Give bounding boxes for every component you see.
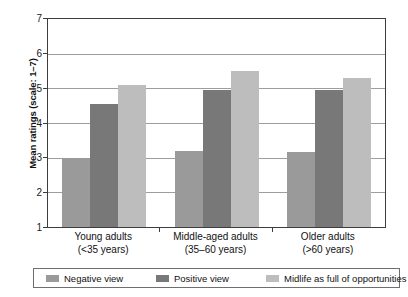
x-group-label-line-1: Middle-aged adults bbox=[159, 231, 271, 244]
x-group-label-line-1: Young adults bbox=[47, 231, 159, 244]
bar-1-3 bbox=[118, 85, 146, 227]
legend-label: Negative view bbox=[64, 273, 123, 284]
bar-1-1 bbox=[62, 158, 90, 227]
bar-2-1 bbox=[175, 151, 203, 227]
legend-item-1[interactable]: Negative view bbox=[46, 273, 123, 284]
legend-item-2[interactable]: Positive view bbox=[156, 273, 229, 284]
y-tick-mark-5 bbox=[43, 88, 47, 89]
legend-swatch-icon bbox=[46, 275, 59, 282]
y-tick-label-6: 6 bbox=[2, 47, 42, 58]
legend-label: Positive view bbox=[174, 273, 229, 284]
x-axis-group-labels: Young adults(<35 years)Middle-aged adult… bbox=[47, 231, 386, 263]
legend-label: Midlife as full of opportunities bbox=[284, 273, 407, 284]
legend-item-3[interactable]: Midlife as full of opportunities bbox=[266, 273, 407, 284]
y-tick-label-1: 1 bbox=[2, 222, 42, 233]
bars-layer bbox=[48, 19, 385, 227]
bar-3-3 bbox=[343, 78, 371, 227]
x-group-label-1: Young adults(<35 years) bbox=[47, 231, 159, 256]
y-tick-label-3: 3 bbox=[2, 152, 42, 163]
x-group-label-line-1: Older adults bbox=[272, 231, 384, 244]
bar-2-3 bbox=[231, 71, 259, 227]
bar-2-2 bbox=[203, 90, 231, 227]
x-group-label-line-2: (>60 years) bbox=[272, 244, 384, 257]
y-tick-mark-6 bbox=[43, 53, 47, 54]
x-group-label-line-2: (<35 years) bbox=[47, 244, 159, 257]
y-tick-label-7: 7 bbox=[2, 13, 42, 24]
y-axis-tick-labels: 1234567 bbox=[0, 18, 42, 228]
bar-3-1 bbox=[287, 152, 315, 227]
bar-1-2 bbox=[90, 104, 118, 227]
y-tick-label-4: 4 bbox=[2, 117, 42, 128]
x-group-label-line-2: (35–60 years) bbox=[159, 244, 271, 257]
y-tick-mark-7 bbox=[43, 18, 47, 19]
y-tick-mark-3 bbox=[43, 157, 47, 158]
x-group-label-2: Middle-aged adults(35–60 years) bbox=[159, 231, 271, 256]
x-tick-mark-1 bbox=[159, 228, 160, 232]
legend-swatch-icon bbox=[156, 275, 169, 282]
y-tick-label-2: 2 bbox=[2, 187, 42, 198]
bar-3-2 bbox=[315, 90, 343, 227]
chart-legend: Negative viewPositive viewMidlife as ful… bbox=[33, 268, 400, 288]
legend-swatch-icon bbox=[266, 275, 279, 282]
y-tick-label-5: 5 bbox=[2, 82, 42, 93]
x-tick-mark-2 bbox=[272, 228, 273, 232]
y-tick-mark-4 bbox=[43, 123, 47, 124]
x-group-label-3: Older adults(>60 years) bbox=[272, 231, 384, 256]
y-tick-mark-2 bbox=[43, 192, 47, 193]
y-tick-mark-1 bbox=[43, 227, 47, 228]
bar-chart: Mean ratings (scale: 1–7) 1234567 Young … bbox=[0, 0, 408, 297]
